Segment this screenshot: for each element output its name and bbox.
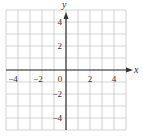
- y-axis-arrow-icon: [64, 12, 69, 19]
- x-tick-label: −2: [33, 74, 43, 84]
- y-tick-label: −2: [52, 89, 62, 99]
- y-axis-label: y: [61, 0, 67, 10]
- y-tick-label: 4: [58, 17, 63, 27]
- x-tick-label: −4: [8, 74, 18, 84]
- y-tick-label: −4: [52, 113, 62, 123]
- x-tick-label: 0: [58, 74, 63, 84]
- y-tick-label: 2: [58, 41, 63, 51]
- x-tick-label: 4: [112, 74, 117, 84]
- x-tick-label: 2: [88, 74, 93, 84]
- coordinate-plane: x y −4 −2 0 2 4 4 2 −2 −4: [0, 0, 143, 140]
- x-axis-arrow-icon: [126, 68, 133, 73]
- x-axis-label: x: [133, 64, 139, 75]
